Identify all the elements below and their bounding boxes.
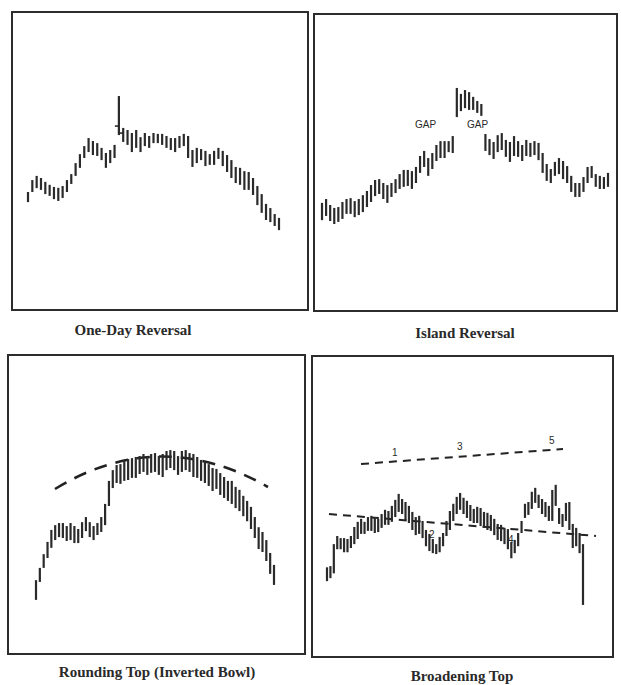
gap-label-left: GAP bbox=[415, 119, 436, 130]
panel-frame bbox=[314, 14, 617, 311]
point-label-4: 4 bbox=[508, 534, 514, 545]
chart-pattern-figure: One-Day Reversal GAP GAP Island Reversal… bbox=[0, 0, 621, 685]
panel-one-day-reversal: One-Day Reversal bbox=[12, 12, 308, 338]
panel-caption: Rounding Top (Inverted Bowl) bbox=[59, 664, 255, 681]
panel-caption: Broadening Top bbox=[411, 668, 514, 684]
panel-broadening-top: 1 2 3 4 5 Broadening Top bbox=[312, 356, 613, 684]
panel-caption: One-Day Reversal bbox=[74, 322, 191, 338]
point-label-5: 5 bbox=[549, 435, 555, 446]
gap-label-right: GAP bbox=[467, 119, 488, 130]
panel-frame bbox=[12, 12, 308, 310]
panel-island-reversal: GAP GAP Island Reversal bbox=[314, 14, 617, 341]
panel-rounding-top: Rounding Top (Inverted Bowl) bbox=[8, 355, 305, 681]
point-label-2: 2 bbox=[429, 529, 435, 540]
point-label-1: 1 bbox=[392, 447, 398, 458]
panel-caption: Island Reversal bbox=[415, 325, 515, 341]
point-label-3: 3 bbox=[457, 441, 463, 452]
panel-frame bbox=[8, 355, 305, 654]
